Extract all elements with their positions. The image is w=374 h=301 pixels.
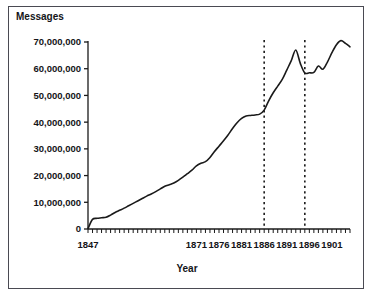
x-tick-label: 1901 xyxy=(321,239,343,250)
x-tick-label: 1876 xyxy=(208,239,229,250)
line-chart-plot: 010,000,00020,000,00030,000,00040,000,00… xyxy=(0,0,374,301)
x-tick-label: 1896 xyxy=(299,239,320,250)
y-tick-label: 20,000,000 xyxy=(33,170,81,181)
y-tick-label: 60,000,000 xyxy=(33,63,81,74)
y-tick-label: 30,000,000 xyxy=(33,143,81,154)
x-tick-label: 1886 xyxy=(254,239,275,250)
y-tick-label: 0 xyxy=(76,223,81,234)
x-tick-label: 1847 xyxy=(77,239,98,250)
data-line-messages xyxy=(88,41,350,229)
y-tick-label: 10,000,000 xyxy=(33,197,81,208)
x-tick-label: 1891 xyxy=(276,239,298,250)
chart-figure: Messages 010,000,00020,000,00030,000,000… xyxy=(0,0,374,301)
x-tick-label: 1871 xyxy=(186,239,208,250)
y-tick-label: 50,000,000 xyxy=(33,90,81,101)
y-tick-label: 70,000,000 xyxy=(33,36,81,47)
x-tick-label: 1881 xyxy=(231,239,253,250)
x-axis-title: Year xyxy=(0,263,374,274)
y-tick-label: 40,000,000 xyxy=(33,117,81,128)
